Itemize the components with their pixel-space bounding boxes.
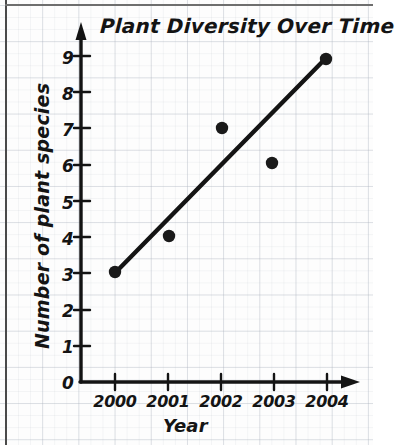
data-point-2003[interactable] <box>266 157 278 169</box>
data-point-2000[interactable] <box>109 266 121 278</box>
trend-line <box>115 57 327 273</box>
data-point-2004[interactable] <box>320 53 332 65</box>
data-point-2001[interactable] <box>163 230 175 242</box>
data-point-2002[interactable] <box>216 122 228 134</box>
